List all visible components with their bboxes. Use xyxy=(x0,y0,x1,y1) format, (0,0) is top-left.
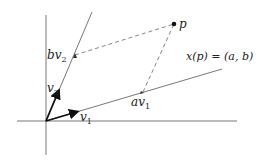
label-p: p xyxy=(179,17,187,31)
v1-vector xyxy=(46,112,78,122)
label-v2: v2 xyxy=(47,81,59,97)
label-bv2: bv2 xyxy=(47,48,67,64)
label-av1: av1 xyxy=(131,95,150,111)
dashed-av1-to-p xyxy=(143,24,174,92)
basis-coordinate-diagram: p bv2 v2 v1 av1 x(p) = (a, b) xyxy=(0,0,263,163)
point-p xyxy=(172,22,177,27)
dashed-bv2-to-p xyxy=(75,24,174,55)
label-v1: v1 xyxy=(80,110,92,126)
coordinate-equation: x(p) = (a, b) xyxy=(186,50,253,63)
